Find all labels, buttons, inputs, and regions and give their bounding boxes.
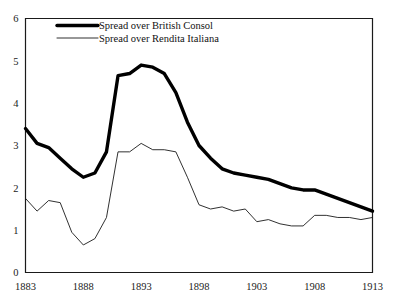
x-tick-label: 1898 [189,281,210,292]
series-spread-over-british-consol [26,65,373,211]
chart-container: 0123456 1883188818931898190319081913 Spr… [0,0,396,308]
x-tick-label: 1883 [15,281,36,292]
x-tick-label: 1888 [73,281,94,292]
legend-label-rendita-italiana: Spread over Rendita Italiana [99,33,219,44]
x-tick-label: 1908 [304,281,325,292]
legend-label-british-consol: Spread over British Consol [99,20,213,31]
series-spread-over-rendita-italiana [26,143,373,245]
y-tick-label: 1 [13,225,18,236]
x-axis-tick-labels: 1883188818931898190319081913 [15,281,383,292]
y-tick-label: 4 [13,98,19,109]
y-tick-label: 3 [13,140,18,151]
y-tick-label: 5 [13,56,18,67]
x-tick-label: 1913 [362,281,383,292]
chart-legend: Spread over British Consol Spread over R… [57,20,219,44]
x-tick-label: 1903 [246,281,267,292]
y-tick-label: 0 [13,267,18,278]
y-axis-tick-labels: 0123456 [13,13,19,278]
line-chart: 0123456 1883188818931898190319081913 Spr… [0,0,396,308]
y-tick-label: 6 [13,13,18,24]
x-tick-label: 1893 [131,281,152,292]
y-tick-label: 2 [13,183,18,194]
series-group [26,65,373,245]
